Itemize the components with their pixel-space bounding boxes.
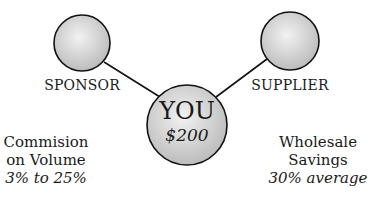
- you-node-amount: $200: [147, 126, 227, 144]
- commission-note-range: 3% to 25%: [0, 169, 92, 187]
- wholesale-note: Wholesale Savings 30% average: [268, 133, 368, 187]
- you-node-title: YOU: [147, 99, 227, 123]
- sponsor-node-circle: [54, 15, 110, 71]
- commission-note-line1: Commision: [0, 133, 92, 151]
- commission-note-line2: on Volume: [0, 151, 92, 169]
- wholesale-note-line1: Wholesale: [268, 133, 368, 151]
- supplier-node-circle: [261, 12, 319, 70]
- wholesale-note-line2: Savings: [268, 151, 368, 169]
- commission-note: Commision on Volume 3% to 25%: [0, 133, 92, 187]
- supplier-label: SUPPLIER: [248, 77, 332, 93]
- sponsor-label: SPONSOR: [42, 77, 122, 93]
- wholesale-note-average: 30% average: [268, 169, 368, 187]
